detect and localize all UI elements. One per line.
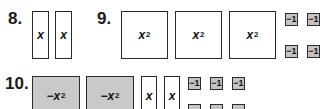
tile-exponent: 2: [115, 91, 119, 100]
negative-unit-tile: −1: [285, 13, 298, 26]
negative-unit-tile: −1: [188, 77, 201, 90]
x-tile: x: [141, 76, 157, 109]
tile-label: −x: [46, 89, 60, 103]
tile-label: x: [246, 28, 253, 42]
negative-unit-tile: −1: [307, 13, 320, 26]
x-squared-tile: x2: [121, 11, 168, 59]
tile-label: x: [192, 28, 199, 42]
negative-unit-tile: −1: [307, 45, 320, 58]
negative-unit-tile-partial: [232, 104, 245, 109]
tile-exponent: 2: [61, 91, 65, 100]
tile-label: −x: [100, 89, 114, 103]
x-squared-tile: x2: [229, 11, 276, 59]
negative-x-squared-tile: −x2: [86, 76, 134, 109]
x-tile: x: [32, 11, 49, 59]
tile-label: x: [60, 28, 67, 42]
negative-unit-tile-partial: [188, 104, 201, 109]
x-tile: x: [55, 11, 72, 59]
x-tile: x: [164, 76, 180, 109]
negative-unit-tile-partial: [210, 104, 223, 109]
tile-label: x: [37, 28, 44, 42]
negative-unit-tile: −1: [210, 77, 223, 90]
tile-exponent: 2: [146, 30, 150, 39]
tile-label: x: [138, 28, 145, 42]
negative-unit-tile: −1: [232, 77, 245, 90]
problem-number-8: 8.: [8, 10, 22, 27]
x-squared-tile: x2: [175, 11, 222, 59]
problem-number-9: 9.: [97, 10, 111, 27]
negative-unit-tile: −1: [285, 45, 298, 58]
negative-x-squared-tile: −x2: [32, 76, 80, 109]
tile-exponent: 2: [254, 30, 258, 39]
problem-number-10: 10.: [5, 75, 29, 92]
tile-label: x: [169, 89, 176, 103]
tile-label: x: [146, 89, 153, 103]
tile-exponent: 2: [200, 30, 204, 39]
